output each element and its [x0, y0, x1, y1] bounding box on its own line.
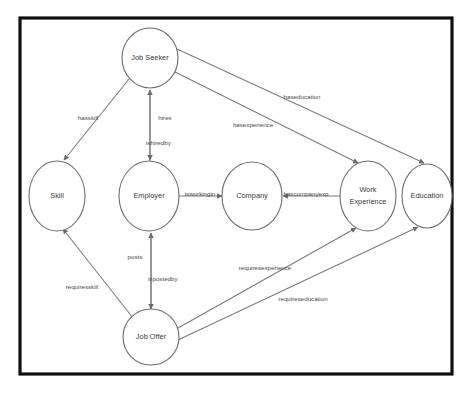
diagram-canvas: Job Seeker Skill Employer Company Work E… — [0, 0, 470, 394]
edge-label-hasexperience: hasexperience — [233, 121, 274, 128]
node-job-offer-label: Job Offer — [136, 332, 167, 341]
node-company[interactable]: Company — [222, 162, 282, 230]
ontology-diagram: Job Seeker Skill Employer Company Work E… — [0, 0, 470, 394]
node-employer-label: Employer — [133, 191, 165, 200]
node-job-offer[interactable]: Job Offer — [123, 309, 179, 365]
node-employer[interactable]: Employer — [119, 161, 179, 231]
node-education-label: Education — [411, 191, 444, 200]
edge-label-requiresskill: requiresskill — [66, 283, 99, 290]
edge-label-isworkingin: isworkingin — [185, 190, 216, 197]
node-education[interactable]: Education — [402, 164, 452, 228]
node-work-experience[interactable]: Work Experience — [340, 161, 396, 231]
edge-label-hires: hires — [158, 114, 171, 121]
node-job-seeker-label: Job Seeker — [131, 53, 169, 62]
node-company-label: Company — [236, 191, 268, 200]
node-job-seeker[interactable]: Job Seeker — [122, 28, 178, 88]
node-work-experience-label-line2: Experience — [350, 197, 387, 206]
edge-label-hasskill: hasskill — [78, 114, 98, 121]
edge-label-requiresexperience: requiresexperience — [239, 264, 292, 271]
edge-label-posts: posts — [128, 253, 143, 260]
edge-label-haseducation: haseducation — [284, 93, 321, 100]
edge-label-ispostedby: ispostedby — [148, 275, 178, 282]
edge-label-requireseducation: requireseducation — [278, 295, 328, 302]
node-skill[interactable]: Skill — [29, 161, 85, 231]
node-work-experience-label-line1: Work — [359, 185, 376, 194]
node-skill-label: Skill — [50, 191, 64, 200]
edge-label-hascompanyexp: hascompanyexp — [283, 190, 329, 197]
edge-label-ishiredby: ishiredby — [146, 139, 172, 146]
